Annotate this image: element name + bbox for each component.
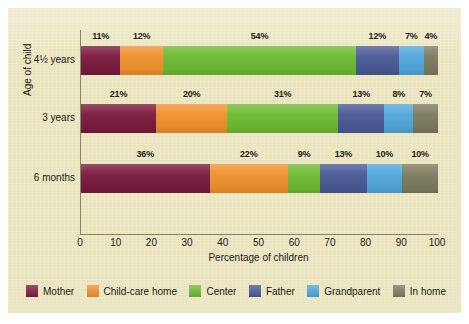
segment-value-label: 10% — [406, 149, 434, 159]
segment-value-label: 12% — [363, 31, 391, 41]
bar-segment[interactable] — [320, 164, 366, 193]
segment-value-label: 12% — [128, 31, 156, 41]
bar-segment[interactable] — [120, 46, 163, 75]
bar-segment[interactable] — [399, 46, 424, 75]
legend-item[interactable]: In home — [393, 285, 446, 297]
legend-item[interactable]: Child-care home — [87, 285, 177, 297]
category-label: 3 years — [42, 112, 75, 123]
bar-segment[interactable] — [288, 164, 320, 193]
legend-label: In home — [410, 286, 446, 297]
segment-value-label: 4% — [417, 31, 445, 41]
bar-segment[interactable] — [210, 164, 289, 193]
x-tick-label: 0 — [77, 237, 83, 248]
x-axis-line — [80, 234, 438, 235]
legend-color-swatch — [249, 285, 261, 297]
x-tick-label: 40 — [217, 237, 228, 248]
legend-color-swatch — [307, 285, 319, 297]
legend-color-swatch — [189, 285, 201, 297]
stacked-bar — [81, 164, 438, 193]
stacked-bar — [81, 104, 438, 133]
bar-segment[interactable] — [163, 46, 356, 75]
x-tick-label: 10 — [110, 237, 121, 248]
segment-value-label: 9% — [290, 149, 318, 159]
segment-value-label: 8% — [385, 89, 413, 99]
x-tick-label: 60 — [289, 237, 300, 248]
x-tick-label: 50 — [253, 237, 264, 248]
segment-value-label: 13% — [347, 89, 375, 99]
bar-segment[interactable] — [367, 164, 403, 193]
x-tick-label: 30 — [182, 237, 193, 248]
chart-figure: Age of child 4½ years11%12%54%12%7%4%3 y… — [8, 8, 461, 313]
segment-value-label: 54% — [246, 31, 274, 41]
segment-value-label: 22% — [235, 149, 263, 159]
segment-value-label: 13% — [329, 149, 357, 159]
plot-area: 4½ years11%12%54%12%7%4%3 years21%20%31%… — [80, 30, 437, 234]
bar-segment[interactable] — [81, 104, 156, 133]
legend-label: Center — [206, 286, 236, 297]
bar-segment[interactable] — [424, 46, 438, 75]
legend-item[interactable]: Mother — [26, 285, 74, 297]
stacked-bar — [81, 46, 438, 75]
segment-value-label: 10% — [370, 149, 398, 159]
category-label: 4½ years — [34, 54, 75, 65]
legend-label: Mother — [43, 286, 74, 297]
bar-segment[interactable] — [413, 104, 438, 133]
legend-item[interactable]: Center — [189, 285, 236, 297]
bar-segment[interactable] — [227, 104, 338, 133]
bar-segment[interactable] — [338, 104, 384, 133]
x-axis-title: Percentage of children — [80, 252, 437, 263]
bar-segment[interactable] — [402, 164, 438, 193]
legend-label: Grandparent — [324, 286, 380, 297]
bar-segment[interactable] — [81, 46, 120, 75]
segment-value-label: 11% — [87, 31, 115, 41]
bar-segment[interactable] — [156, 104, 227, 133]
legend-item[interactable]: Grandparent — [307, 285, 380, 297]
bar-segment[interactable] — [356, 46, 399, 75]
legend-color-swatch — [87, 285, 99, 297]
x-tick-label: 100 — [429, 237, 446, 248]
segment-value-label: 31% — [269, 89, 297, 99]
legend-label: Father — [266, 286, 295, 297]
chart-legend: MotherChild-care homeCenterFatherGrandpa… — [26, 285, 446, 297]
legend-item[interactable]: Father — [249, 285, 295, 297]
x-tick-label: 80 — [360, 237, 371, 248]
y-axis-title: Age of child — [22, 44, 33, 96]
segment-value-label: 7% — [412, 89, 440, 99]
x-tick-label: 90 — [396, 237, 407, 248]
x-tick-label: 20 — [146, 237, 157, 248]
segment-value-label: 36% — [131, 149, 159, 159]
bar-segment[interactable] — [384, 104, 413, 133]
legend-label: Child-care home — [104, 286, 177, 297]
segment-value-label: 20% — [178, 89, 206, 99]
bar-segment[interactable] — [81, 164, 210, 193]
category-label: 6 months — [34, 172, 75, 183]
x-tick-label: 70 — [324, 237, 335, 248]
legend-color-swatch — [26, 285, 38, 297]
segment-value-label: 21% — [104, 89, 132, 99]
legend-color-swatch — [393, 285, 405, 297]
